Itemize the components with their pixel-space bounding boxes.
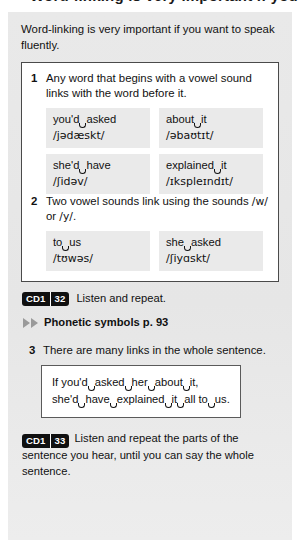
linking-arc-icon xyxy=(214,168,221,169)
sentence-word: have xyxy=(85,393,109,405)
audio-row-2[interactable]: CD1 33 Listen and repeat the parts of th… xyxy=(22,431,279,479)
sentence-word: it, xyxy=(190,376,199,388)
rule-2-text: Two vowel sounds link using the sounds /… xyxy=(46,194,269,224)
panel-content: Word-linking is very important if you wa… xyxy=(8,12,292,479)
rule-3: 3 There are many links in the whole sent… xyxy=(29,343,279,358)
example-word-b: it xyxy=(201,113,207,125)
example-cell: aboutit /əbaʊtɪt/ xyxy=(159,108,263,148)
cd-badge-33[interactable]: CD1 33 xyxy=(22,434,69,448)
cutoff-heading-strip: Word-linking is very important if you xyxy=(0,0,300,8)
example-cell: you'dasked /jədæskt/ xyxy=(46,108,150,148)
example-word-b: have xyxy=(86,159,110,171)
linking-arc-icon xyxy=(165,402,172,403)
linking-arc-icon xyxy=(88,385,95,386)
triangle-right-icon xyxy=(23,318,30,328)
rule-2: 2 Two vowel sounds link using the sounds… xyxy=(31,194,269,224)
example-word-a: explained xyxy=(166,159,214,171)
sentence-word: about xyxy=(155,376,183,388)
example-words: sheasked xyxy=(166,235,256,250)
example-word-b: asked xyxy=(191,236,221,248)
sentence-word: her xyxy=(132,376,148,388)
example-word-a: she'd xyxy=(53,159,79,171)
linking-arc-icon xyxy=(208,402,215,403)
linking-arc-icon xyxy=(78,402,85,403)
linking-arc-icon xyxy=(125,385,132,386)
sentence-word: If you'd xyxy=(52,376,88,388)
cd-label: CD1 xyxy=(22,292,50,306)
example-ipa: /əbaʊtɪt/ xyxy=(166,128,256,143)
linking-arc-icon xyxy=(183,385,190,386)
intro-paragraph: Word-linking is very important if you wa… xyxy=(21,22,279,53)
example-sentence-box: If you'daskedheraboutit, she'dhaveexplai… xyxy=(41,365,241,418)
sentence-line-2: she'dhaveexplaineditall tous. xyxy=(52,391,230,408)
example-cell: explainedit /ɪkspleɪndɪt/ xyxy=(159,154,263,194)
lesson-panel: Word-linking is very important if you wa… xyxy=(8,12,292,540)
linking-arc-icon xyxy=(177,402,184,403)
rule-2-text-middle: or xyxy=(46,210,59,222)
example-word-b: us xyxy=(69,236,81,248)
linking-arc-icon xyxy=(79,122,86,123)
example-cell: tous /tʊwəs/ xyxy=(46,231,150,271)
rules-box: 1 Any word that begins with a vowel soun… xyxy=(21,62,279,282)
cutoff-heading-text: Word-linking is very important if you xyxy=(30,0,298,4)
sentence-word: she'd xyxy=(52,393,78,405)
example-word-a: you'd xyxy=(53,113,79,125)
example-cell: sheasked /ʃiyɑskt/ xyxy=(159,231,263,271)
example-words: you'dasked xyxy=(53,112,143,127)
example-words: she'dhave xyxy=(53,158,143,173)
rule-2-sound-2: /y/ xyxy=(59,210,73,223)
sentence-word: all to xyxy=(184,393,208,405)
rule-1-number: 1 xyxy=(31,71,46,86)
cross-reference-link[interactable]: Phonetic symbols p. 93 xyxy=(23,315,279,330)
example-word-a: about xyxy=(166,113,194,125)
linking-arc-icon xyxy=(184,245,191,246)
example-word-b: asked xyxy=(86,113,116,125)
example-cell: she'dhave /ʃidəv/ xyxy=(46,154,150,194)
sentence-word: us. xyxy=(215,393,230,405)
example-ipa: /jədæskt/ xyxy=(53,128,143,143)
example-words: explainedit xyxy=(166,158,256,173)
rule-2-text-after: . xyxy=(73,210,76,222)
rule-2-number: 2 xyxy=(31,194,46,209)
rule-1-text: Any word that begins with a vowel sound … xyxy=(46,71,269,101)
cd-track-number: 33 xyxy=(50,434,70,448)
rule-2-sound-1: /w/ xyxy=(252,195,268,208)
linking-arc-icon xyxy=(148,385,155,386)
example-words: tous xyxy=(53,235,143,250)
linking-arc-icon xyxy=(194,122,201,123)
cross-reference-label: Phonetic symbols p. 93 xyxy=(44,315,168,330)
cd-track-number: 32 xyxy=(50,292,70,306)
example-ipa: /ɪkspleɪndɪt/ xyxy=(166,174,256,189)
example-word-a: she xyxy=(166,236,184,248)
audio-row-1[interactable]: CD1 32 Listen and repeat. xyxy=(22,291,279,306)
example-ipa: /ʃiyɑskt/ xyxy=(166,251,256,266)
rule-1-examples: you'dasked /jədæskt/ aboutit /əbaʊtɪt/ s… xyxy=(46,108,269,194)
rule-2-text-before: Two vowel sounds link using the sounds xyxy=(46,195,252,207)
rule-3-text: There are many links in the whole senten… xyxy=(43,343,279,358)
double-triangle-right-icon xyxy=(23,318,38,328)
linking-arc-icon xyxy=(110,402,117,403)
cd-label: CD1 xyxy=(22,434,50,448)
example-words: aboutit xyxy=(166,112,256,127)
rule-2-examples: tous /tʊwəs/ sheasked /ʃiyɑskt/ xyxy=(46,231,269,271)
example-ipa: /ʃidəv/ xyxy=(53,174,143,189)
sentence-word: asked xyxy=(95,376,125,388)
sentence-word: explained xyxy=(117,393,165,405)
triangle-right-icon xyxy=(31,318,38,328)
rule-3-number: 3 xyxy=(29,343,43,358)
linking-arc-icon xyxy=(79,168,86,169)
example-word-a: to xyxy=(53,236,62,248)
example-word-b: it xyxy=(221,159,227,171)
rule-1: 1 Any word that begins with a vowel soun… xyxy=(31,71,269,101)
cd-badge-32[interactable]: CD1 32 xyxy=(22,292,69,306)
linking-arc-icon xyxy=(62,245,69,246)
sentence-line-1: If you'daskedheraboutit, xyxy=(52,374,230,391)
audio-instruction-1: Listen and repeat. xyxy=(76,291,166,306)
example-ipa: /tʊwəs/ xyxy=(53,251,143,266)
